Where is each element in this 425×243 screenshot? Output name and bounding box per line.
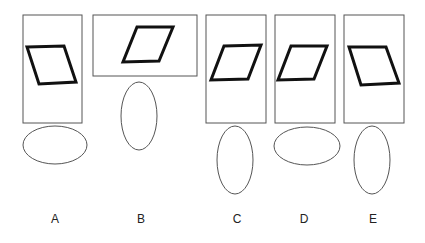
- option-label-c: C: [227, 212, 247, 226]
- ellipse-d: [274, 127, 340, 165]
- ellipse-b: [121, 82, 157, 150]
- parallelogram-c: [211, 45, 261, 80]
- parallelogram-b: [123, 27, 173, 62]
- parallelogram-e: [349, 47, 399, 85]
- parallelogram-d: [278, 46, 327, 80]
- ellipse-e: [354, 126, 390, 194]
- option-label-b: B: [131, 212, 151, 226]
- option-d: [274, 15, 340, 165]
- ellipse-c: [217, 126, 253, 194]
- rectangle-frame-b: [93, 15, 197, 76]
- parallelogram-a: [27, 46, 76, 84]
- option-label-e: E: [363, 212, 383, 226]
- option-e: [344, 15, 404, 194]
- rectangle-frame-d: [275, 15, 335, 123]
- option-b: [93, 15, 197, 150]
- option-a: [23, 15, 87, 164]
- ellipse-a: [23, 126, 87, 164]
- option-label-d: D: [294, 212, 314, 226]
- option-c: [206, 15, 266, 194]
- diagram-canvas: [0, 0, 425, 243]
- option-label-a: A: [45, 212, 65, 226]
